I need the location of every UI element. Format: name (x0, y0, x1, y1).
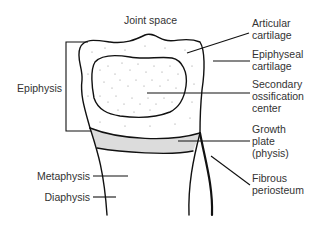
articular-surface-outline (79, 34, 204, 133)
label-fibrous-periosteum: Fibrous periosteum (252, 172, 304, 196)
label-epiphysis: Epiphysis (17, 82, 62, 94)
label-articular-cartilage: Articular cartilage (252, 17, 293, 41)
secondary-ossification-center-outline (92, 56, 187, 118)
leader-articular-cartilage (187, 33, 249, 53)
label-metaphysis: Metaphysis (37, 170, 90, 182)
leader-fibrous-periosteum (211, 156, 250, 185)
label-epiphyseal-cartilage: Epiphyseal cartilage (252, 48, 306, 72)
label-secondary-ossification-center: Secondary ossification center (252, 78, 307, 114)
bone-anatomy-diagram: Joint space Articular cartilage Epiphyse… (0, 0, 319, 231)
label-growth-plate: Growth plate (physis) (252, 123, 289, 159)
label-joint-space: Joint space (124, 14, 177, 26)
label-diaphysis: Diaphysis (44, 191, 90, 203)
epiphysis-bracket (66, 42, 95, 131)
periosteum-line (200, 133, 212, 215)
